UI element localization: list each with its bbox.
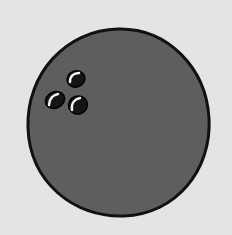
bowling-ball-icon xyxy=(0,0,232,235)
ball-body xyxy=(28,29,209,216)
bowling-ball xyxy=(28,29,209,216)
illustration-canvas xyxy=(0,0,232,235)
